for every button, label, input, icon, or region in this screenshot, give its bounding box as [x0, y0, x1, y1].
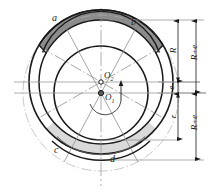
dim-label-r: r	[169, 110, 178, 124]
center-marker-o1	[98, 90, 103, 95]
center-marker-o2	[99, 80, 103, 84]
figure-canvas: a b c d O2 O1 R R+e e r R+e	[0, 0, 214, 191]
center-label-o1: O1	[105, 93, 115, 104]
rotation-arrow-head	[119, 80, 124, 86]
point-label-c: c	[54, 145, 58, 155]
center-label-o2-sub: 2	[111, 76, 114, 82]
point-label-b: b	[131, 17, 136, 27]
center-label-o2: O2	[104, 71, 114, 82]
dim-label-R-plus-e-upper: R+e	[190, 38, 199, 68]
center-label-o1-sub: 1	[112, 98, 115, 104]
point-label-a: a	[52, 13, 57, 23]
point-label-d: d	[110, 154, 115, 164]
dim-label-e: e	[167, 82, 176, 94]
dim-label-R-plus-e-lower: R+e	[190, 108, 199, 138]
dim-label-R: R	[169, 44, 178, 58]
dim-arrow-e-top	[176, 78, 180, 83]
